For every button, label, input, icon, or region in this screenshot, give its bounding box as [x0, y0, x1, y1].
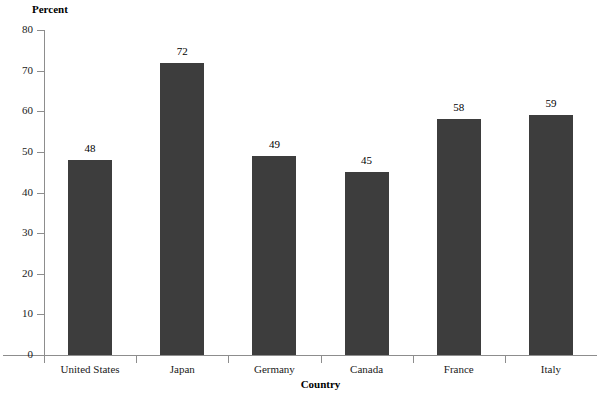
y-axis-tick: [37, 30, 45, 31]
x-axis-category-label: Italy: [496, 364, 606, 375]
bar-value-label: 48: [60, 143, 120, 154]
x-axis-tick: [136, 356, 137, 363]
bar: [437, 119, 481, 355]
bar: [68, 160, 112, 355]
x-axis-line: [3, 355, 597, 356]
x-axis-tick: [44, 356, 45, 363]
bar-chart: Percent 01020304050607080 48United State…: [0, 0, 606, 395]
x-axis-tick: [505, 356, 506, 363]
bar: [529, 115, 573, 355]
y-axis-tick: [37, 111, 45, 112]
y-axis-tick: [37, 274, 45, 275]
bar: [252, 156, 296, 355]
x-axis-tick: [228, 356, 229, 363]
y-axis-tick-label: 80: [5, 24, 33, 35]
y-axis-title: Percent: [32, 3, 68, 15]
bar-value-label: 45: [337, 155, 397, 166]
y-axis-tick: [37, 314, 45, 315]
x-axis-tick: [413, 356, 414, 363]
y-axis-tick-label: 50: [5, 146, 33, 157]
y-axis-tick-label: 0: [5, 349, 33, 360]
y-axis-tick: [37, 193, 45, 194]
bar-value-label: 49: [244, 139, 304, 150]
y-axis-tick: [37, 152, 45, 153]
y-axis-tick: [37, 233, 45, 234]
bar-value-label: 59: [521, 98, 581, 109]
bar: [345, 172, 389, 355]
y-axis-tick-label: 70: [5, 65, 33, 76]
y-axis-tick-label: 20: [5, 268, 33, 279]
y-axis-tick: [37, 71, 45, 72]
y-axis-tick-label: 30: [5, 227, 33, 238]
x-axis-title: Country: [44, 378, 597, 390]
bar-value-label: 58: [429, 102, 489, 113]
bar-value-label: 72: [152, 46, 212, 57]
bar: [160, 63, 204, 356]
y-axis-tick-label: 10: [5, 308, 33, 319]
y-axis-tick-label: 40: [5, 187, 33, 198]
x-axis-tick: [321, 356, 322, 363]
y-axis-tick-label: 60: [5, 105, 33, 116]
